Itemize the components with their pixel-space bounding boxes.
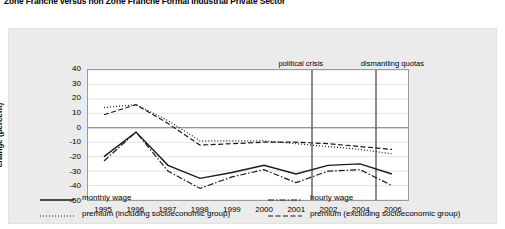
plot-lines [88,70,408,200]
y-tick-0: 0 [55,123,81,133]
legend-label: premium (excluding socioeconomic group) [310,208,460,220]
y-tick-10: 10 [55,108,81,118]
chart-legend: monthly wagehourly wagepremium (includin… [8,190,497,224]
figure-title: Zone Franche versus non Zone Franche For… [4,0,474,8]
legend-key-icon [266,208,306,220]
figure: Zone Franche versus non Zone Franche For… [0,0,505,229]
legend-label: monthly wage [82,192,131,204]
annotation-dismantling-quotas: dismantling quotas [361,59,424,69]
y-tick--10: -10 [55,137,81,147]
legend-key-icon [38,208,78,220]
legend-label: hourly wage [310,192,353,204]
y-tick--20: -20 [55,152,81,162]
y-tick--30: -30 [55,167,81,177]
legend-key-icon [38,192,78,204]
series-premium [104,105,392,150]
y-tick-30: 30 [55,79,81,89]
plot-area [87,69,409,201]
y-tick-40: 40 [55,64,81,74]
legend-key-icon [266,192,306,204]
y-tick-20: 20 [55,93,81,103]
legend-label: premium (including socioeconomic group) [82,208,230,220]
annotation-political-crisis: political crisis [278,59,323,69]
y-axis-label: change (percent) [0,69,7,201]
